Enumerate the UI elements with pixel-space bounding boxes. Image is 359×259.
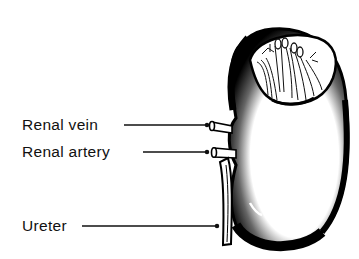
leader-lines <box>82 123 219 227</box>
renal-vein-vessel <box>210 122 233 134</box>
label-renal-vein: Renal vein <box>22 117 98 133</box>
ureter-vessel <box>220 158 232 245</box>
label-ureter: Ureter <box>22 218 67 234</box>
renal-artery-vessel <box>212 148 237 158</box>
label-renal-artery: Renal artery <box>22 144 110 160</box>
